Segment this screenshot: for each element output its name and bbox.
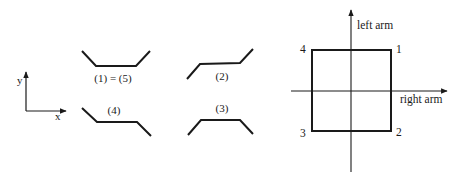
shape-label: (4) <box>108 104 121 117</box>
right-arm-label: right arm <box>400 93 443 106</box>
arm-phase-diagram: left arm right arm 1 2 3 4 <box>291 10 447 172</box>
shape-4: (4) <box>82 104 151 136</box>
shape-2: (2) <box>187 49 253 83</box>
y-axis-label: y <box>17 74 23 86</box>
xy-axes-legend: y x <box>17 72 66 122</box>
shape-outline <box>188 120 253 135</box>
corner-label-4: 4 <box>300 43 306 55</box>
figure-canvas: y x (1) = (5) (2) (3) (4) left arm right… <box>0 0 462 175</box>
shape-label: (1) = (5) <box>94 72 132 85</box>
shape-label: (2) <box>216 70 229 83</box>
left-arm-label: left arm <box>357 19 393 31</box>
shape-outline <box>82 51 150 66</box>
shape-1-5: (1) = (5) <box>82 51 150 85</box>
x-axis-label: x <box>55 110 61 122</box>
shape-label: (3) <box>216 102 229 115</box>
corner-label-3: 3 <box>300 127 306 139</box>
corner-label-1: 1 <box>396 43 402 55</box>
shape-3: (3) <box>188 102 253 135</box>
corner-label-2: 2 <box>396 126 402 138</box>
